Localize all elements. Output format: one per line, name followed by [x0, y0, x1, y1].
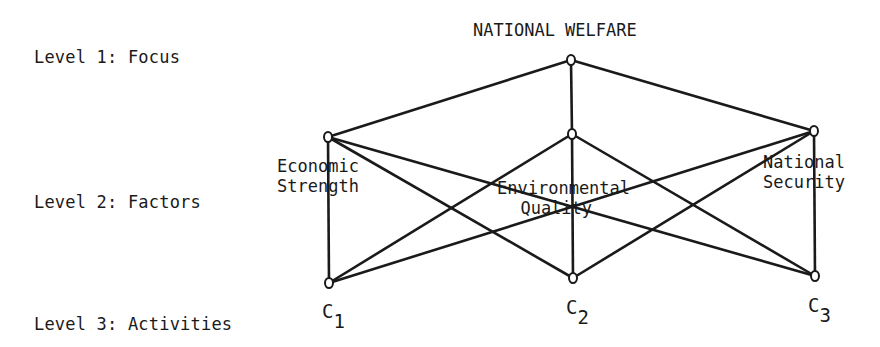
focus-node — [567, 55, 575, 65]
factor-node-security — [810, 126, 818, 136]
factor-node-economic — [324, 132, 332, 142]
factor-security-label: National Security — [763, 152, 845, 192]
activity-node-c1 — [325, 278, 333, 288]
activity-c2-label: C2 — [566, 296, 589, 318]
hierarchy-graph — [0, 0, 880, 347]
activity-c3-label: C3 — [808, 294, 831, 316]
activity-c1-label: C1 — [322, 300, 345, 322]
factor-economic-label: Economic Strength — [277, 156, 359, 196]
activity-node-c2 — [569, 273, 577, 283]
factor-node-environmental — [568, 129, 576, 139]
activity-node-c3 — [811, 271, 819, 281]
factor-environmental-label: Environmental Quality — [497, 178, 630, 218]
edges — [328, 60, 815, 283]
